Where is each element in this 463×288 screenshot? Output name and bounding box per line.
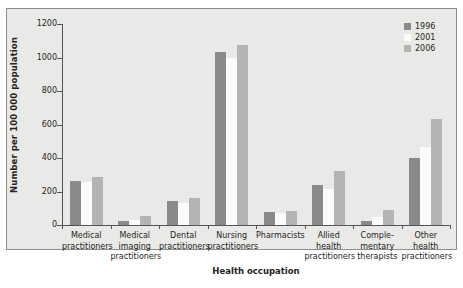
- y-tick-label: 0: [5, 221, 57, 229]
- bar: [70, 181, 81, 225]
- x-tick-mark: [305, 225, 306, 229]
- x-category-label-line: imaging: [111, 242, 160, 253]
- bar: [167, 201, 178, 225]
- bar: [334, 171, 345, 225]
- bar: [129, 220, 140, 225]
- x-category-label-line: practitioners: [111, 252, 160, 263]
- x-category-label-line: mentary: [353, 242, 402, 253]
- x-category-label-line: practitioners: [208, 242, 257, 253]
- x-tick-mark: [256, 225, 257, 229]
- x-category-label-line: Pharmacists: [256, 231, 305, 242]
- x-category-label: Comple-mentarytherapists: [353, 231, 402, 263]
- bar: [118, 221, 129, 225]
- x-category-label-line: Allied: [305, 231, 354, 242]
- x-category-label: Nursingpractitioners: [208, 231, 257, 252]
- bar: [431, 119, 442, 225]
- bar-group: [305, 24, 354, 225]
- x-tick-mark: [62, 225, 63, 229]
- legend-label: 2001: [415, 34, 435, 42]
- bar-group: [208, 24, 257, 225]
- bar: [178, 203, 189, 225]
- bar: [361, 221, 372, 225]
- x-category-label-line: Medical: [111, 231, 160, 242]
- legend-item: 1996: [404, 21, 456, 32]
- y-axis-title: Number per 100 000 population: [9, 20, 19, 210]
- x-category-label-line: Other: [402, 231, 451, 242]
- bar: [140, 216, 151, 225]
- bar: [226, 58, 237, 226]
- x-tick-mark: [111, 225, 112, 229]
- x-category-label-line: Comple-: [353, 231, 402, 242]
- bar: [383, 210, 394, 225]
- bar-group: [62, 24, 111, 225]
- bar: [323, 189, 334, 225]
- x-axis-title: Health occupation: [62, 266, 450, 276]
- bar-group: [256, 24, 305, 225]
- legend-item: 2006: [404, 43, 456, 54]
- x-tick-mark: [208, 225, 209, 229]
- legend-swatch: [404, 45, 411, 52]
- bar: [312, 185, 323, 225]
- x-category-label-line: practitioners: [402, 252, 451, 263]
- x-category-label-line: health: [402, 242, 451, 253]
- legend: 199620012006: [404, 21, 456, 54]
- x-tick-mark: [402, 225, 403, 229]
- x-category-label: Medicalpractitioners: [62, 231, 111, 252]
- x-category-label-line: practitioners: [62, 242, 111, 253]
- bar: [372, 217, 383, 225]
- y-tick-label-wrap: 0: [0, 221, 57, 229]
- bar-chart-figure: 020040060080010001200 Number per 100 000…: [0, 0, 463, 288]
- x-tick-mark: [450, 225, 451, 229]
- x-category-label-line: Dental: [159, 231, 208, 242]
- bar: [81, 182, 92, 225]
- bar-group: [402, 24, 451, 225]
- bar: [409, 158, 420, 225]
- bar: [215, 52, 226, 225]
- x-category-label-line: practitioners: [305, 252, 354, 263]
- x-tick-mark: [159, 225, 160, 229]
- bar-group: [111, 24, 160, 225]
- x-category-label-line: Medical: [62, 231, 111, 242]
- bars-layer: [62, 24, 450, 225]
- x-category-label: Medicalimagingpractitioners: [111, 231, 160, 263]
- x-category-label-line: therapists: [353, 252, 402, 263]
- legend-swatch: [404, 23, 411, 30]
- x-category-label-line: Nursing: [208, 231, 257, 242]
- legend-swatch: [404, 34, 411, 41]
- legend-label: 1996: [415, 23, 435, 31]
- bar: [420, 147, 431, 225]
- x-category-label: Alliedhealthpractitioners: [305, 231, 354, 263]
- bar-group: [159, 24, 208, 225]
- bar-group: [353, 24, 402, 225]
- x-category-label: Dentalpractitioners: [159, 231, 208, 252]
- bar: [189, 198, 200, 225]
- bar: [264, 212, 275, 225]
- bar: [237, 45, 248, 225]
- x-category-label: Pharmacists: [256, 231, 305, 242]
- legend-item: 2001: [404, 32, 456, 43]
- bar: [92, 177, 103, 225]
- x-category-label-line: health: [305, 242, 354, 253]
- bar: [286, 211, 297, 225]
- x-category-label-line: practitioners: [159, 242, 208, 253]
- legend-label: 2006: [415, 45, 435, 53]
- bar: [275, 213, 286, 225]
- x-tick-mark: [353, 225, 354, 229]
- x-category-label: Otherhealthpractitioners: [402, 231, 451, 263]
